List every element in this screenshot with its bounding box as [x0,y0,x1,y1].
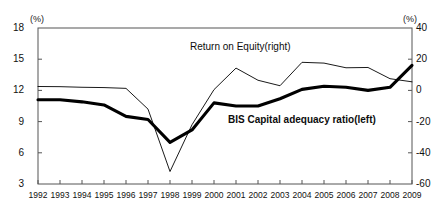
chart-container: (%) (%) 181512963 40200-20-40-60 1992199… [0,0,440,219]
left-axis-tick-label: 9 [4,116,24,127]
left-axis-tick-label: 12 [4,84,24,95]
right-axis-tick-label: 20 [416,53,440,64]
x-axis-tick-label: 2009 [397,190,427,200]
right-axis-tick-label: 0 [416,84,440,95]
right-axis-tick-label: -60 [416,178,440,189]
left-axis-unit-label: (%) [30,14,44,24]
right-axis-tick-label: 40 [416,22,440,33]
left-axis-tick-label: 18 [4,22,24,33]
chart-plot-area [0,0,440,219]
right-axis-tick-label: -40 [416,147,440,158]
series-label-roe: Return on Equity(right) [190,41,291,52]
series-label-bis: BIS Capital adequacy ratio(left) [228,114,376,125]
right-axis-tick-label: -20 [416,116,440,127]
left-axis-tick-label: 15 [4,53,24,64]
right-axis-unit-label: (%) [403,14,417,24]
left-axis-tick-label: 3 [4,178,24,189]
left-axis-tick-label: 6 [4,147,24,158]
